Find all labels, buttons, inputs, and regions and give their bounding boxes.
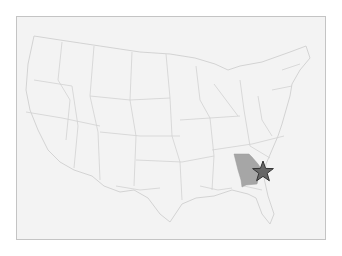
us-outline	[26, 36, 310, 224]
us-map	[0, 0, 342, 256]
